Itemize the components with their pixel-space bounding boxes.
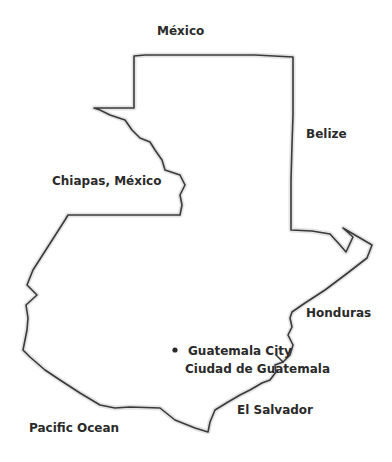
- label-el-salvador: El Salvador: [237, 403, 313, 417]
- guatemala-map: [0, 0, 392, 462]
- label-pacific-ocean: Pacific Ocean: [29, 421, 119, 435]
- label-capital-es: Ciudad de Guatemala: [185, 362, 330, 376]
- label-honduras: Honduras: [306, 306, 371, 320]
- label-capital-en: Guatemala City: [188, 344, 292, 358]
- capital-city-marker: [172, 347, 177, 352]
- label-chiapas: Chiapas, México: [52, 174, 161, 188]
- label-belize: Belize: [306, 127, 347, 141]
- label-mexico: México: [157, 24, 204, 38]
